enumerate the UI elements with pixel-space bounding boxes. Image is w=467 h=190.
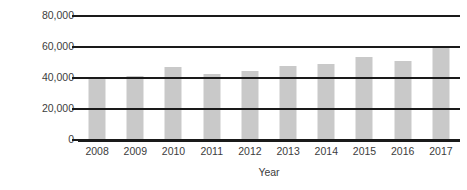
bar[interactable] bbox=[241, 71, 258, 140]
y-axis-tick-labels: 020,00040,00060,00080,000 bbox=[22, 0, 74, 190]
x-axis-tick-label: 2015 bbox=[345, 145, 385, 157]
bar-slot bbox=[345, 16, 383, 140]
y-axis-tick-label: 40,000 bbox=[26, 72, 74, 83]
x-axis-tick-label: 2008 bbox=[77, 145, 117, 157]
y-axis-tick-label: 60,000 bbox=[26, 41, 74, 52]
x-axis-tick-label: 2014 bbox=[306, 145, 346, 157]
bar-slot bbox=[231, 16, 269, 140]
bar[interactable] bbox=[165, 67, 182, 140]
bar-slot bbox=[307, 16, 345, 140]
x-axis-tick-label: 2013 bbox=[268, 145, 308, 157]
x-axis-tick-label: 2012 bbox=[230, 145, 270, 157]
bar[interactable] bbox=[318, 64, 335, 140]
x-axis-tick-label: 2016 bbox=[383, 145, 423, 157]
plot-area bbox=[78, 16, 460, 140]
bar-slot bbox=[422, 16, 460, 140]
bar-chart: Million PLN 020,00040,00060,00080,000 20… bbox=[0, 0, 467, 190]
bar-slot bbox=[116, 16, 154, 140]
y-axis-tick-label: 0 bbox=[26, 134, 74, 145]
bar-slot bbox=[269, 16, 307, 140]
bar[interactable] bbox=[203, 74, 220, 140]
bar[interactable] bbox=[394, 61, 411, 140]
bar[interactable] bbox=[432, 47, 449, 140]
x-axis-tick-label: 2017 bbox=[421, 145, 461, 157]
y-axis-tick-label: 80,000 bbox=[26, 10, 74, 21]
x-axis-tick-label: 2009 bbox=[115, 145, 155, 157]
bar[interactable] bbox=[356, 57, 373, 140]
bar[interactable] bbox=[89, 78, 106, 140]
bar-slot bbox=[78, 16, 116, 140]
bar-slot bbox=[384, 16, 422, 140]
bar[interactable] bbox=[127, 76, 144, 140]
bars-layer bbox=[78, 16, 460, 140]
x-axis-tick-label: 2010 bbox=[154, 145, 194, 157]
bar-slot bbox=[154, 16, 192, 140]
y-axis-tick-label: 20,000 bbox=[26, 103, 74, 114]
bar-slot bbox=[193, 16, 231, 140]
x-axis-tick-label: 2011 bbox=[192, 145, 232, 157]
x-axis-tick-labels: 2008200920102011201220132014201520162017 bbox=[78, 145, 460, 159]
x-axis-title: Year bbox=[78, 166, 460, 178]
bar[interactable] bbox=[280, 66, 297, 140]
